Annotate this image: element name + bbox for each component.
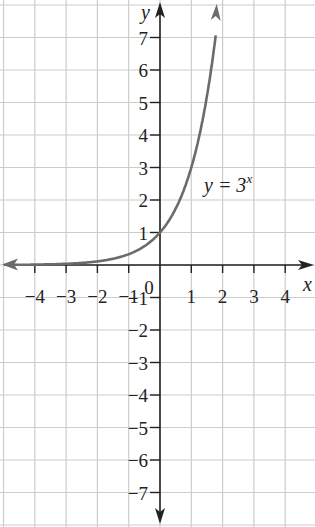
y-tick-label: −6 (128, 450, 148, 471)
y-tick-label: −3 (128, 353, 148, 374)
x-tick-label: 1 (187, 286, 197, 307)
curve-top-arrow-icon (211, 4, 221, 21)
y-tick-label: 3 (139, 158, 149, 179)
curve-label: y = 3x (202, 171, 252, 197)
x-tick-label: 4 (280, 286, 290, 307)
y-tick-label: −4 (128, 385, 149, 406)
y-tick-label: 2 (139, 190, 149, 211)
x-tick-label: 2 (218, 286, 228, 307)
y-tick-label: 6 (139, 60, 149, 81)
exponential-chart: −4−3−2−1123407654321−1−2−3−4−5−6−7xyy = … (0, 0, 315, 527)
y-tick-label: −2 (128, 320, 148, 341)
y-tick-label: −1 (128, 288, 148, 309)
y-tick-label: −5 (128, 418, 148, 439)
y-axis-label: y (139, 1, 150, 24)
x-tick-label: −2 (87, 286, 107, 307)
x-axis-label: x (302, 273, 312, 295)
y-tick-label: 1 (139, 223, 149, 244)
y-tick-label: 7 (139, 28, 149, 49)
y-tick-label: 5 (139, 93, 149, 114)
y-tick-label: −7 (128, 483, 148, 504)
y-tick-label: 4 (139, 125, 149, 146)
x-tick-label: −4 (25, 286, 46, 307)
x-tick-label: 3 (249, 286, 259, 307)
x-tick-label: −3 (56, 286, 76, 307)
